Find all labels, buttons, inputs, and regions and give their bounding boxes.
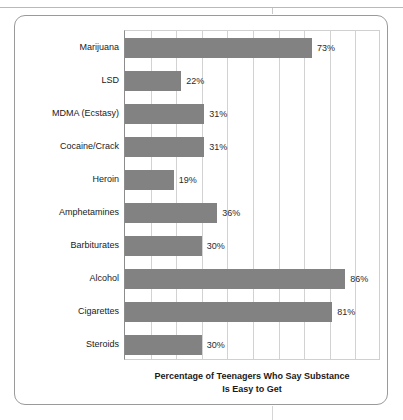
bar-row: 36%	[125, 196, 379, 229]
bar-row: 19%	[125, 163, 379, 196]
bar-value-label: 19%	[179, 175, 197, 185]
x-axis-title-line-2: Is Easy to Get	[124, 383, 380, 396]
x-axis-title: Percentage of Teenagers Who Say Substanc…	[124, 370, 380, 396]
bar-row: 73%	[125, 31, 379, 64]
bar	[125, 203, 217, 223]
bar-row: 31%	[125, 130, 379, 163]
bar-row: 22%	[125, 64, 379, 97]
bar-row: 86%	[125, 262, 379, 295]
bar	[125, 71, 181, 91]
category-label: Marijuana	[79, 30, 119, 63]
category-label: LSD	[101, 63, 119, 96]
page-bottom-rule-tick	[272, 406, 273, 420]
bar-row: 31%	[125, 97, 379, 130]
bar-value-label: 31%	[209, 109, 227, 119]
page-top-rule-tick	[272, 8, 273, 14]
page-top-rule	[0, 7, 403, 8]
bar	[125, 38, 312, 58]
bar	[125, 170, 174, 190]
plot-area: 73%22%31%31%19%36%30%86%81%30%	[124, 30, 380, 360]
bar-value-label: 36%	[222, 208, 240, 218]
category-label: MDMA (Ecstasy)	[52, 96, 119, 129]
bar-value-label: 86%	[350, 274, 368, 284]
category-label: Steroids	[86, 327, 119, 360]
bar-value-label: 73%	[317, 43, 335, 53]
bar	[125, 269, 345, 289]
bar-value-label: 22%	[186, 76, 204, 86]
bar-row: 30%	[125, 229, 379, 262]
bar-row: 81%	[125, 295, 379, 328]
bar	[125, 302, 332, 322]
x-axis-title-line-1: Percentage of Teenagers Who Say Substanc…	[124, 370, 380, 383]
bar	[125, 335, 202, 355]
category-label: Heroin	[92, 162, 119, 195]
bar-value-label: 30%	[207, 241, 225, 251]
category-label: Barbiturates	[70, 228, 119, 261]
bar-row: 30%	[125, 328, 379, 361]
bar-series: 73%22%31%31%19%36%30%86%81%30%	[125, 31, 379, 359]
category-label: Amphetamines	[59, 195, 119, 228]
category-label: Alcohol	[89, 261, 119, 294]
bar-value-label: 81%	[337, 307, 355, 317]
bar-value-label: 30%	[207, 340, 225, 350]
bar	[125, 236, 202, 256]
bar-value-label: 31%	[209, 142, 227, 152]
bar	[125, 137, 204, 157]
category-label: Cigarettes	[78, 294, 119, 327]
category-axis-labels: MarijuanaLSDMDMA (Ecstasy)Cocaine/CrackH…	[30, 30, 119, 360]
category-label: Cocaine/Crack	[60, 129, 119, 162]
bar	[125, 104, 204, 124]
